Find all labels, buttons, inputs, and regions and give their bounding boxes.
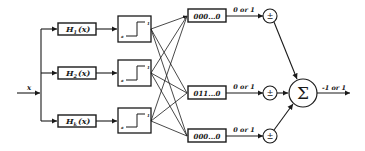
threshold-high-label: 1: [147, 113, 150, 118]
edge-label-3: 0 or 1: [233, 126, 254, 134]
code-value-2: 011...0: [194, 89, 221, 98]
code-value-1: 000...0: [194, 12, 221, 21]
svg-text:H2(x): H2(x): [65, 68, 91, 79]
edge-label-1: 0 or 1: [233, 6, 254, 14]
step-function-icon: [126, 22, 145, 36]
threshold-high-label: 1: [147, 21, 150, 26]
diagram-canvas: x H1(x) H2(x) Hk(x) 1 a 1 a 1 a 000...0 …: [0, 0, 365, 151]
step-function-icon: [126, 66, 145, 80]
threshold-low-label: a: [121, 125, 124, 130]
sigma-icon: Σ: [297, 83, 309, 103]
crossbar-connections: [151, 16, 187, 136]
threshold-low-label: a: [121, 34, 124, 39]
plus-minus-icon: ±: [267, 12, 274, 21]
filter-label-2: H2(x): [65, 68, 91, 79]
threshold-low-label: a: [121, 78, 124, 83]
filter-label-1: H1(x): [65, 24, 91, 35]
code-value-3: 000...0: [194, 132, 221, 141]
input-label: x: [26, 83, 32, 92]
plus-minus-icon: ±: [267, 132, 274, 141]
step-function-icon: [126, 114, 145, 127]
svg-text:Hk(x): Hk(x): [65, 116, 91, 127]
plus-minus-icon: ±: [267, 89, 274, 98]
output-label: -1 or 1: [322, 84, 346, 92]
svg-text:H1(x): H1(x): [65, 24, 91, 35]
threshold-high-label: 1: [147, 65, 150, 70]
edge-label-2: 0 or 1: [233, 83, 254, 91]
filter-label-k: Hk(x): [65, 116, 91, 127]
